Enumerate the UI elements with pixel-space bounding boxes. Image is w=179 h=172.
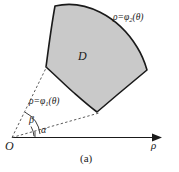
polar-region-figure: D ρ=φ2(θ) ρ=φ1(θ) β α O ρ (a) xyxy=(0,0,179,172)
inner-curve-label-suffix: (θ) xyxy=(48,96,59,106)
region-label-d: D xyxy=(78,50,87,62)
inner-curve-label-prefix: ρ=φ xyxy=(29,96,45,106)
outer-curve-label: ρ=φ2(θ) xyxy=(113,13,143,23)
figure-caption: (a) xyxy=(80,152,92,164)
angle-arc-alpha xyxy=(31,127,34,137)
outer-curve-label-prefix: ρ=φ xyxy=(113,12,129,22)
angle-label-alpha: α xyxy=(41,125,46,135)
rho-axis-label: ρ xyxy=(151,140,156,151)
inner-curve-label: ρ=φ1(θ) xyxy=(29,97,59,107)
origin-label: O xyxy=(5,140,14,152)
ray-alpha-dashed xyxy=(12,113,99,138)
outer-curve-label-suffix: (θ) xyxy=(132,12,143,22)
angle-label-beta: β xyxy=(29,115,34,125)
